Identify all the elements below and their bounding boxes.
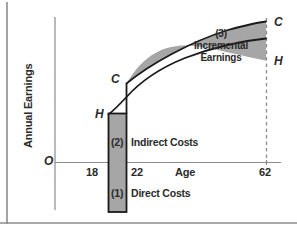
curve-label-h-right: H xyxy=(274,55,283,67)
direct-costs-label: Direct Costs xyxy=(131,188,190,199)
human-capital-figure: Annual Earnings O 18 22 Age 62 C H C H (… xyxy=(0,0,297,232)
indirect-costs-label: Indirect Costs xyxy=(131,137,198,148)
indirect-costs-number: (2) xyxy=(111,137,123,148)
curve-label-h-left: H xyxy=(95,108,104,120)
y-axis-label: Annual Earnings xyxy=(23,64,34,148)
x-tick-label-62: 62 xyxy=(259,167,271,178)
x-tick-label-22: 22 xyxy=(131,167,143,178)
incremental-earnings-line1: Incremental xyxy=(186,41,256,51)
incremental-earnings-line2: Earnings xyxy=(186,53,256,63)
incremental-earnings-number: (3) xyxy=(204,29,238,39)
x-tick-label-18: 18 xyxy=(86,167,98,178)
x-axis-label: Age xyxy=(175,167,195,178)
curve-label-c-left: C xyxy=(111,73,120,85)
origin-label: O xyxy=(44,155,53,167)
direct-costs-number: (1) xyxy=(111,188,123,199)
curve-label-c-right: C xyxy=(274,16,283,28)
